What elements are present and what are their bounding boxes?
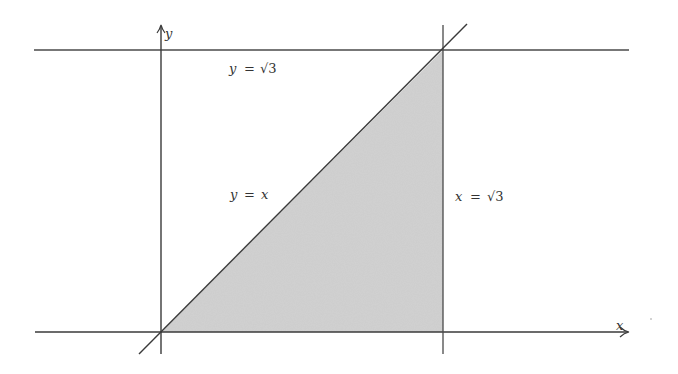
svg-text:√3: √3 <box>487 189 504 204</box>
svg-text:=: = <box>244 61 255 76</box>
label-x-equals-sqrt3: x = √3 <box>455 189 504 204</box>
label-y-equals-x: y = x <box>229 187 269 202</box>
y-axis-label: y <box>164 26 173 41</box>
svg-text:=: = <box>470 189 481 204</box>
svg-text:x: x <box>455 189 463 204</box>
x-axis-label: x <box>616 318 624 333</box>
svg-text:x: x <box>261 187 269 202</box>
svg-text:y: y <box>229 187 238 202</box>
svg-text:y: y <box>228 61 237 76</box>
label-y-equals-sqrt3: y = √3 <box>228 61 277 76</box>
svg-text:√3: √3 <box>260 61 277 76</box>
region-diagram: y x y = √3 y = x x = √3 <box>0 0 678 374</box>
svg-text:=: = <box>244 187 255 202</box>
stray-dot <box>650 318 652 320</box>
